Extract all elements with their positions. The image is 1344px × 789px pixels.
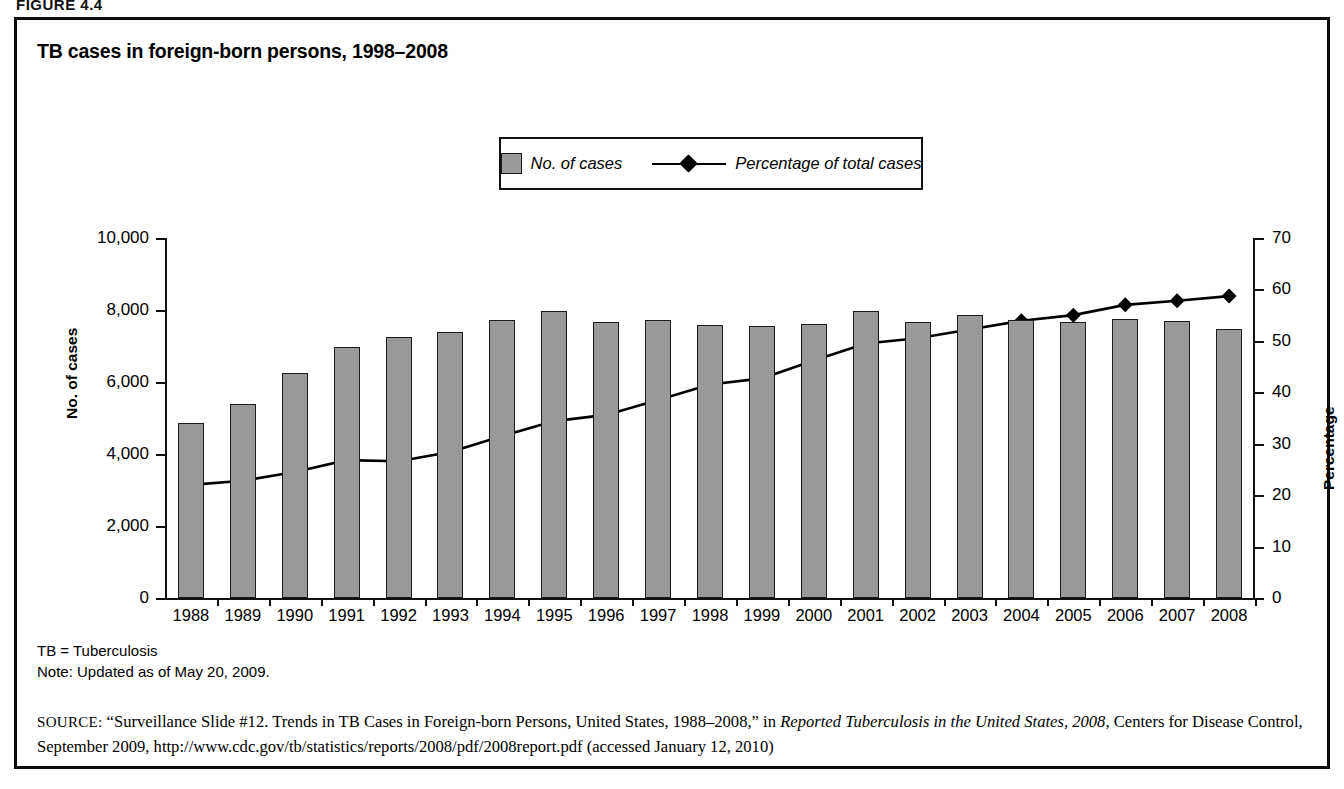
figure-page: FIGURE 4.4 TB cases in foreign-born pers… (0, 0, 1344, 789)
y-tick-left (156, 526, 165, 528)
y-tick-label-right: 50 (1272, 331, 1291, 351)
diamond-marker-2007 (1170, 293, 1185, 308)
chart-legend: No. of cases Percentage of total cases (499, 137, 923, 190)
chart-title: TB cases in foreign-born persons, 1998–2… (37, 40, 448, 63)
bar-2005 (1060, 322, 1086, 598)
x-tick-label: 1997 (640, 606, 677, 625)
bar-2006 (1112, 319, 1138, 598)
x-tick-label: 1991 (328, 606, 365, 625)
plot-area: 02,0004,0006,0008,00010,0000102030405060… (165, 238, 1255, 600)
x-tick (1047, 598, 1049, 606)
y-tick-left (156, 598, 165, 600)
y-tick-label-left: 0 (140, 588, 149, 608)
y-tick-right (1255, 495, 1264, 497)
x-tick-label: 1989 (224, 606, 261, 625)
x-tick (995, 598, 997, 606)
legend-swatch-icon (501, 153, 522, 174)
x-tick-label: 1988 (173, 606, 210, 625)
bar-1990 (282, 373, 308, 598)
bar-2004 (1008, 320, 1034, 598)
y-tick-right (1255, 289, 1264, 291)
bar-1992 (386, 337, 412, 598)
y-tick-right (1255, 547, 1264, 549)
source-label: SOURCE: (37, 714, 102, 730)
bar-1998 (697, 325, 723, 598)
x-tick (788, 598, 790, 606)
x-tick-label: 2003 (951, 606, 988, 625)
x-tick (840, 598, 842, 606)
x-tick-label: 1990 (276, 606, 313, 625)
bar-1997 (645, 320, 671, 598)
y-axis-title-right: Percentage (1320, 406, 1338, 490)
x-tick-label: 2007 (1159, 606, 1196, 625)
legend-label-bars: No. of cases (531, 154, 623, 173)
y-tick-right (1255, 341, 1264, 343)
y-tick-label-right: 10 (1272, 537, 1291, 557)
bar-2000 (801, 324, 827, 598)
bar-1995 (541, 311, 567, 598)
source-italic-1: Reported Tuberculosis in the United Stat… (780, 712, 1068, 731)
y-axis-title-left: No. of cases (63, 328, 81, 419)
x-tick (269, 598, 271, 606)
legend-line-icon (652, 157, 726, 171)
bar-2007 (1164, 321, 1190, 598)
x-tick-label: 2002 (899, 606, 936, 625)
x-tick-label: 2004 (1003, 606, 1040, 625)
diamond-marker-2006 (1118, 297, 1133, 312)
x-tick (476, 598, 478, 606)
figure-frame: TB cases in foreign-born persons, 1998–2… (14, 17, 1330, 769)
x-tick-label: 1993 (432, 606, 469, 625)
x-tick-label: 2001 (847, 606, 884, 625)
y-tick-label-right: 40 (1272, 382, 1291, 402)
x-tick-label: 1998 (692, 606, 729, 625)
figure-notes: TB = Tuberculosis Note: Updated as of Ma… (37, 640, 270, 683)
y-tick-label-right: 0 (1272, 588, 1281, 608)
y-tick-label-left: 4,000 (106, 444, 149, 464)
bar-2002 (905, 322, 931, 598)
x-tick (321, 598, 323, 606)
x-tick-label: 2008 (1211, 606, 1248, 625)
figure-label: FIGURE 4.4 (16, 0, 103, 13)
x-tick-label: 1992 (380, 606, 417, 625)
y-tick-label-left: 10,000 (97, 228, 149, 248)
x-tick (1203, 598, 1205, 606)
bar-2001 (853, 311, 879, 598)
y-tick-label-left: 8,000 (106, 300, 149, 320)
y-tick-left (156, 382, 165, 384)
x-tick (373, 598, 375, 606)
x-tick (1099, 598, 1101, 606)
bar-2008 (1216, 329, 1242, 598)
y-tick-right (1255, 444, 1264, 446)
x-tick-label: 2000 (795, 606, 832, 625)
y-tick-label-right: 60 (1272, 279, 1291, 299)
y-tick-left (156, 310, 165, 312)
x-tick-label: 2006 (1107, 606, 1144, 625)
y-tick-label-right: 30 (1272, 434, 1291, 454)
x-tick (425, 598, 427, 606)
y-tick-label-right: 20 (1272, 485, 1291, 505)
source-italic-2: 2008 (1072, 712, 1105, 731)
y-tick-label-left: 6,000 (106, 372, 149, 392)
y-tick-label-left: 2,000 (106, 516, 149, 536)
x-tick (736, 598, 738, 606)
source-text-1: “Surveillance Slide #12. Trends in TB Ca… (107, 712, 781, 731)
bar-2003 (957, 315, 983, 598)
bar-1996 (593, 322, 619, 598)
legend-label-line: Percentage of total cases (735, 154, 921, 173)
x-tick-label: 1999 (744, 606, 781, 625)
y-tick-right (1255, 238, 1264, 240)
bar-1989 (230, 404, 256, 598)
x-tick (892, 598, 894, 606)
x-tick-label: 1994 (484, 606, 521, 625)
y-tick-left (156, 238, 165, 240)
bar-1991 (334, 347, 360, 598)
legend-item-bars: No. of cases (501, 153, 623, 174)
x-tick (684, 598, 686, 606)
y-tick-right (1255, 392, 1264, 394)
diamond-marker-2008 (1222, 289, 1237, 304)
x-tick-label: 1995 (536, 606, 573, 625)
x-tick (217, 598, 219, 606)
x-tick-label: 1996 (588, 606, 625, 625)
note-updated: Note: Updated as of May 20, 2009. (37, 661, 270, 682)
y-tick-left (156, 454, 165, 456)
